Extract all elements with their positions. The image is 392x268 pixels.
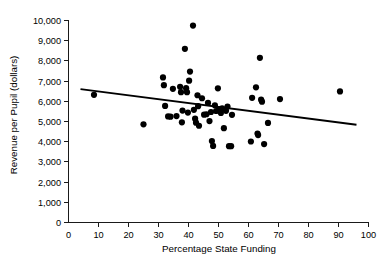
data-point	[160, 74, 166, 80]
data-point	[228, 143, 234, 149]
x-tick-label: 100	[361, 230, 376, 240]
scatter-plot-canvas: 01,0002,0003,0004,0005,0006,0007,0008,00…	[0, 0, 392, 268]
data-point	[259, 99, 265, 105]
x-tick-label: 50	[213, 230, 223, 240]
data-point	[173, 113, 179, 119]
regression-line	[81, 89, 357, 125]
x-tick-label: 20	[123, 230, 133, 240]
x-tick-label: 80	[303, 230, 313, 240]
data-point	[265, 120, 271, 126]
data-points	[91, 22, 343, 149]
data-point	[255, 132, 261, 138]
y-axis-title: Revenue per Pupil (dollars)	[8, 56, 19, 175]
y-tick-label: 0	[56, 218, 61, 228]
x-tick-label: 60	[243, 230, 253, 240]
data-point	[210, 143, 216, 149]
data-point	[170, 86, 176, 92]
data-point	[190, 22, 196, 28]
data-point	[229, 112, 235, 118]
data-point	[249, 95, 255, 101]
data-point	[185, 110, 191, 116]
data-point	[182, 46, 188, 52]
data-point	[179, 119, 185, 125]
data-point	[215, 85, 221, 91]
x-tick-label: 30	[153, 230, 163, 240]
data-point	[161, 82, 167, 88]
y-tick-label: 9,000	[38, 36, 61, 46]
data-point	[184, 89, 190, 95]
x-tick-label: 0	[66, 230, 71, 240]
x-axis: 0102030405060708090100	[66, 223, 376, 240]
data-point	[206, 118, 212, 124]
x-tick-label: 40	[183, 230, 193, 240]
data-point	[140, 121, 146, 127]
scatter-plot-figure: 01,0002,0003,0004,0005,0006,0007,0008,00…	[0, 0, 392, 268]
data-point	[179, 107, 185, 113]
y-tick-label: 1,000	[38, 198, 61, 208]
data-point	[162, 103, 168, 109]
y-tick-label: 5,000	[38, 117, 61, 127]
x-axis-title: Percentage State Funding	[162, 243, 276, 254]
x-tick-label: 90	[333, 230, 343, 240]
data-point	[253, 84, 259, 90]
data-point	[261, 141, 267, 147]
data-point	[187, 69, 193, 75]
trend-line	[81, 89, 357, 125]
data-point	[277, 96, 283, 102]
x-tick-label: 70	[273, 230, 283, 240]
y-tick-label: 2,000	[38, 178, 61, 188]
data-point	[91, 92, 97, 98]
data-point	[196, 123, 202, 129]
data-point	[221, 125, 227, 131]
y-tick-label: 10,000	[33, 16, 61, 26]
data-point	[178, 89, 184, 95]
data-point	[167, 114, 173, 120]
data-point	[177, 84, 183, 90]
data-point	[186, 78, 192, 84]
y-tick-label: 7,000	[38, 77, 61, 87]
data-point	[257, 55, 263, 61]
y-tick-label: 3,000	[38, 157, 61, 167]
x-tick-label: 10	[93, 230, 103, 240]
y-tick-label: 6,000	[38, 97, 61, 107]
data-point	[199, 95, 205, 101]
data-point	[248, 138, 254, 144]
data-point	[337, 88, 343, 94]
y-tick-label: 8,000	[38, 56, 61, 66]
y-tick-label: 4,000	[38, 137, 61, 147]
y-axis: 01,0002,0003,0004,0005,0006,0007,0008,00…	[33, 16, 69, 228]
